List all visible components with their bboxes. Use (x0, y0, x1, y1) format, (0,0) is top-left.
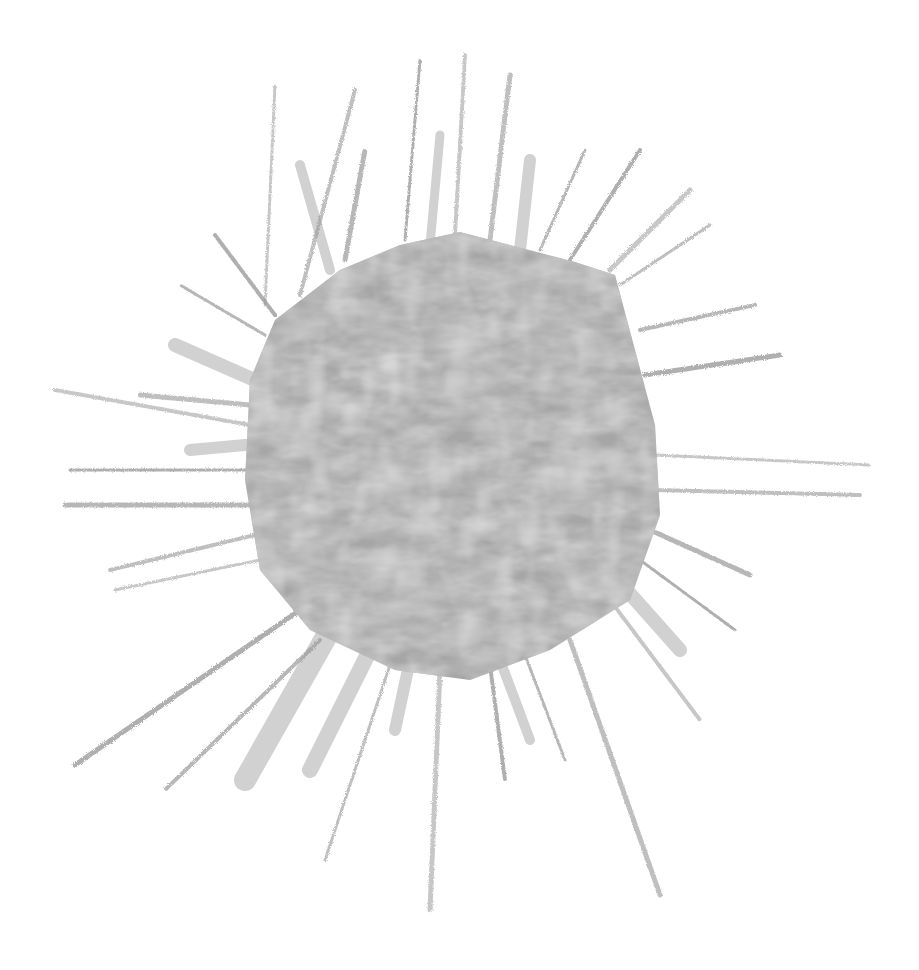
pencil-ray (265, 85, 275, 305)
pencil-ray (405, 60, 420, 240)
pencil-ray (655, 490, 860, 495)
pencil-ray (570, 150, 640, 260)
pencil-ray (570, 640, 660, 895)
pencil-ray (180, 285, 265, 335)
pencil-ray (430, 670, 440, 910)
collage-polygon-texture-light (245, 232, 660, 680)
starburst-illustration (0, 0, 919, 970)
pencil-ray (640, 305, 755, 330)
broad-ray (520, 160, 530, 250)
pencil-ray (610, 190, 690, 270)
pencil-ray (345, 150, 365, 260)
pencil-ray (490, 75, 510, 240)
pencil-ray (655, 455, 870, 465)
pencil-ray (650, 530, 750, 575)
collage-polygon (245, 232, 660, 680)
illustration-canvas (0, 0, 919, 970)
pencil-ray (140, 395, 250, 405)
pencil-ray (325, 665, 390, 860)
pencil-ray (490, 665, 505, 780)
broad-ray (300, 165, 330, 270)
pencil-ray (455, 55, 465, 235)
pencil-ray (645, 355, 780, 375)
broad-ray (500, 660, 530, 740)
broad-ray (430, 135, 440, 245)
pencil-ray (620, 225, 710, 285)
pencil-ray (540, 150, 585, 250)
